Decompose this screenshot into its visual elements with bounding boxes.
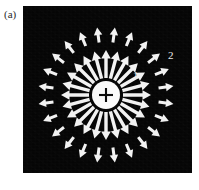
field-arrow: [125, 32, 133, 46]
field-arrow: [110, 28, 118, 43]
field-arrow: [94, 147, 102, 162]
field-arrow: [94, 28, 102, 43]
field-arrow: [125, 143, 133, 157]
field-arrow: [158, 83, 173, 91]
figure-root: (a) 1 2: [0, 0, 199, 190]
field-panel: 1 2: [23, 6, 192, 173]
field-arrow: [158, 99, 173, 107]
field-arrow: [43, 114, 57, 122]
field-arrow: [101, 112, 111, 140]
field-arrow: [79, 32, 87, 46]
point-charge: [92, 81, 120, 109]
field-arrow: [43, 68, 57, 76]
field-arrow: [137, 136, 147, 149]
field-arrow: [79, 143, 87, 157]
panel-label: (a): [4, 8, 16, 20]
field-arrow: [147, 54, 160, 64]
region-label-2: 2: [168, 49, 174, 61]
field-arrow: [123, 90, 151, 100]
field-arrow: [154, 114, 168, 122]
field-arrow: [65, 136, 75, 149]
field-arrow: [147, 126, 160, 136]
field-arrow: [65, 41, 75, 54]
region-label-1: 1: [133, 69, 139, 81]
field-arrow: [137, 41, 147, 54]
field-arrow: [39, 99, 54, 107]
field-arrow: [39, 83, 54, 91]
field-arrow: [52, 54, 65, 64]
field-arrow: [52, 126, 65, 136]
field-arrow: [154, 68, 168, 76]
field-arrow: [61, 90, 89, 100]
field-arrow: [101, 50, 111, 78]
vector-field-diagram: 1 2: [23, 6, 192, 173]
field-arrow: [110, 147, 118, 162]
